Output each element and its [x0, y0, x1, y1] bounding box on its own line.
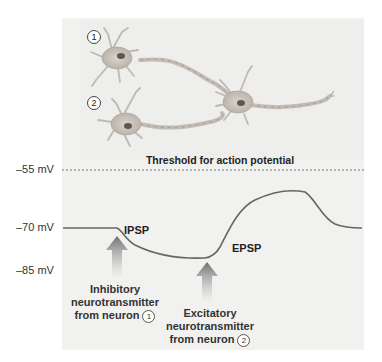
epsp-label: EPSP: [232, 242, 261, 254]
excitatory-caption: Excitatory neurotransmitter from neuron …: [152, 307, 268, 347]
excitatory-arrow: [196, 262, 218, 302]
neuron-2: [98, 88, 223, 146]
ipsp-label: IPSP: [124, 224, 149, 236]
excitatory-caption-line3: from neuron: [170, 333, 235, 345]
axis-label-minus-55: –55 mV: [16, 163, 54, 175]
neuron-1: [91, 28, 235, 100]
neuron-1-number-badge: 1: [87, 30, 101, 44]
axis-label-minus-70: –70 mV: [16, 221, 54, 233]
inhibitory-caption-line1: Inhibitory: [60, 283, 170, 296]
inhibitory-caption-line3: from neuron: [75, 309, 140, 321]
excitatory-caption-line2: neurotransmitter: [152, 320, 268, 333]
inhibitory-arrow: [106, 236, 128, 278]
neuron-2-circled-number: 2: [237, 334, 250, 347]
axis-label-minus-85: –85 mV: [16, 264, 54, 276]
threshold-title: Threshold for action potential: [0, 154, 382, 166]
neuron-3: [216, 66, 335, 124]
neuron-2-number-badge: 2: [87, 96, 101, 110]
excitatory-caption-line1: Excitatory: [152, 307, 268, 320]
